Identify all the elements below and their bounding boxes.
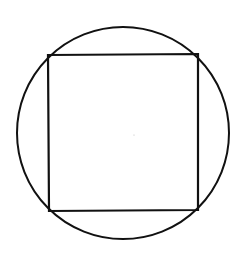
inscribed-square: [48, 54, 198, 211]
center-mark: [133, 134, 134, 135]
inscribed-square-diagram: [0, 0, 249, 259]
